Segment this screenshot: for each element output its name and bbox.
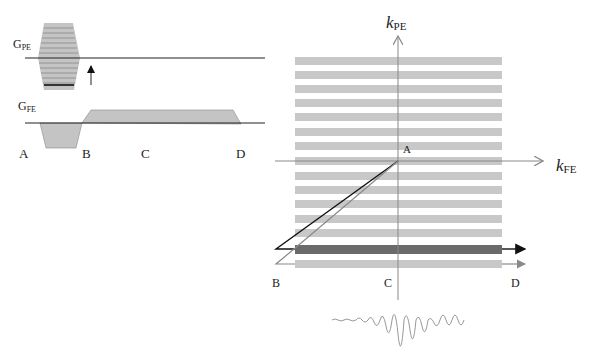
- gpe-label: GPE: [13, 37, 31, 52]
- time-label-a: A: [19, 146, 29, 161]
- kpe-label: kPE: [386, 13, 407, 32]
- kspace-label-d: D: [511, 276, 520, 290]
- time-label-b: B: [82, 146, 91, 161]
- k-space-diagram: GPE GFE A B C D kPE kFE A B C D: [0, 0, 592, 347]
- kspace-label-c: C: [384, 276, 392, 290]
- echo-signal-waveform: [332, 314, 464, 346]
- origin-label-a: A: [403, 143, 411, 155]
- gfe-label: GFE: [18, 99, 36, 114]
- kfe-label: kFE: [556, 156, 577, 175]
- gfe-gradient: [40, 110, 241, 148]
- time-label-d: D: [236, 146, 245, 161]
- kspace-label-b: B: [272, 276, 280, 290]
- time-label-c: C: [141, 146, 150, 161]
- gpe-gradient: [38, 23, 80, 90]
